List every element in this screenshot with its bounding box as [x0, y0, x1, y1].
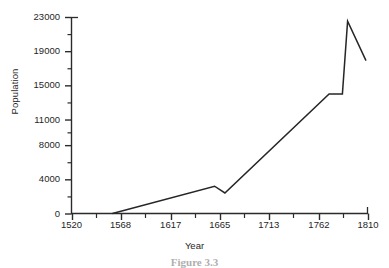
x-axis-tick-labels: 1520156816171665171317621810 — [0, 0, 389, 268]
population-line-chart-figure: Population Year 040008000110001500019000… — [0, 0, 389, 268]
x-tick-label-1: 1568 — [98, 219, 144, 230]
x-tick-label-4: 1713 — [246, 219, 292, 230]
figure-caption: Figure 3.3 — [0, 256, 389, 268]
x-tick-label-0: 1520 — [49, 219, 95, 230]
x-tick-label-2: 1617 — [148, 219, 194, 230]
x-tick-label-6: 1810 — [345, 219, 389, 230]
x-tick-label-5: 1762 — [296, 219, 342, 230]
x-tick-label-3: 1665 — [197, 219, 243, 230]
